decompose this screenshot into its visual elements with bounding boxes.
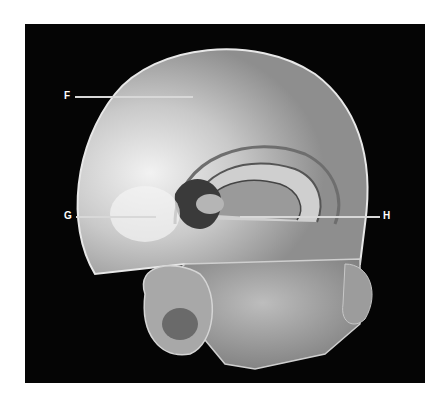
leader-line-f: [75, 96, 193, 98]
brain-specimen-image: [25, 24, 425, 383]
specimen-photo-panel: [25, 24, 425, 383]
label-f: F: [64, 91, 70, 101]
leader-line-g: [76, 216, 156, 218]
label-g: G: [64, 211, 72, 221]
label-h: H: [383, 211, 390, 221]
leader-line-h: [240, 216, 380, 218]
